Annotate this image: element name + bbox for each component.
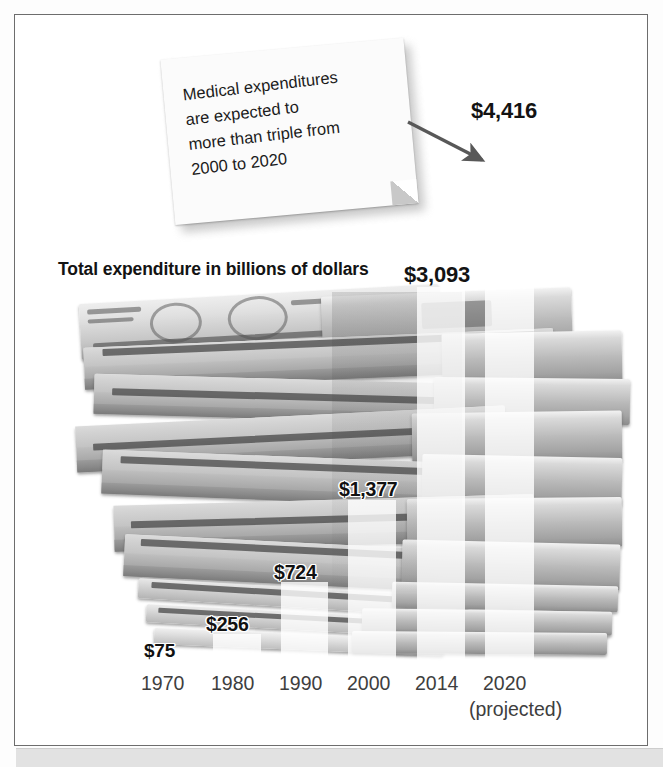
bar-2014 xyxy=(417,287,465,667)
bar-1980 xyxy=(213,634,261,667)
value-label-1990: $724 xyxy=(274,561,317,584)
projected-note: (projected) xyxy=(469,698,562,721)
value-label-1970: $75 xyxy=(144,640,175,662)
x-axis-label-1980: 1980 xyxy=(211,672,254,695)
x-axis-label-2020: 2020 xyxy=(483,672,526,695)
x-axis-label-1990: 1990 xyxy=(279,672,322,695)
value-label-1980: $256 xyxy=(206,613,249,636)
infographic-page: $75 $256 $724 $1,377 $3,093 $4,416 Total… xyxy=(0,0,663,767)
callout-note-text: Medical expenditures are expected to mor… xyxy=(181,58,401,182)
bar-1990 xyxy=(281,582,328,667)
x-axis-label-2000: 2000 xyxy=(347,672,390,695)
bar-2020 xyxy=(485,124,534,667)
callout-note: Medical expenditures are expected to mor… xyxy=(160,37,427,239)
bar-2000 xyxy=(348,500,396,667)
value-label-2000: $1,377 xyxy=(339,478,397,501)
value-label-2014: $3,093 xyxy=(404,262,470,288)
callout-note-fold-corner xyxy=(390,179,418,205)
callout-arrow-icon xyxy=(398,108,498,178)
x-axis-label-2014: 2014 xyxy=(415,672,458,695)
callout-note-paper: Medical expenditures are expected to mor… xyxy=(160,38,418,225)
chart-title: Total expenditure in billions of dollars xyxy=(58,259,369,280)
x-axis-label-1970: 1970 xyxy=(141,672,184,695)
